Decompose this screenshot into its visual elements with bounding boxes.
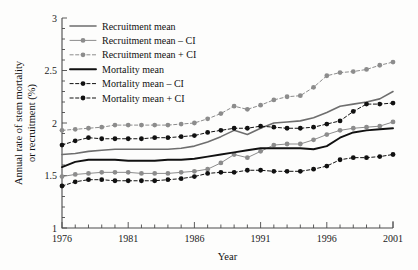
data-point-marker: [218, 170, 223, 175]
data-point-marker: [139, 171, 144, 176]
data-point-marker: [152, 171, 157, 176]
legend-label: Mortality mean + CI: [102, 93, 185, 104]
data-point-marker: [364, 67, 369, 72]
data-point-marker: [99, 136, 104, 141]
data-point-marker: [271, 98, 276, 103]
data-point-marker: [152, 135, 157, 140]
data-point-marker: [324, 73, 329, 78]
data-point-marker: [271, 169, 276, 174]
data-point-marker: [86, 126, 91, 131]
data-point-marker: [218, 128, 223, 133]
data-point-marker: [113, 170, 118, 175]
data-point-marker: [205, 116, 210, 121]
y-tick-label: 1.5: [45, 170, 58, 181]
y-tick-label: 2: [52, 118, 57, 129]
data-point-marker: [391, 101, 396, 106]
legend-swatch-marker: [81, 81, 86, 86]
data-point-marker: [113, 178, 118, 183]
data-point-marker: [192, 133, 197, 138]
data-point-marker: [258, 103, 263, 108]
data-point-marker: [86, 177, 91, 182]
data-point-marker: [351, 109, 356, 114]
data-point-marker: [311, 85, 316, 90]
x-tick-label: 2001: [383, 233, 403, 244]
data-point-marker: [126, 136, 131, 141]
data-point-marker: [139, 123, 144, 128]
data-point-marker: [126, 170, 131, 175]
data-point-marker: [73, 138, 78, 143]
data-point-marker: [271, 143, 276, 148]
data-point-marker: [205, 130, 210, 135]
data-point-marker: [338, 157, 343, 162]
data-point-marker: [60, 184, 65, 189]
x-tick-label: 1996: [317, 233, 337, 244]
data-point-marker: [232, 126, 237, 131]
data-point-marker: [205, 171, 210, 176]
data-point-marker: [298, 126, 303, 131]
data-point-marker: [232, 104, 237, 109]
data-point-marker: [126, 123, 131, 128]
data-point-marker: [166, 177, 171, 182]
data-point-marker: [179, 134, 184, 139]
data-point-marker: [73, 172, 78, 177]
data-point-marker: [324, 132, 329, 137]
data-point-marker: [258, 149, 263, 154]
legend-swatch-marker: [81, 96, 86, 101]
legend-label: Recruitment mean: [102, 21, 176, 32]
y-axis-title-line1: Annual rate of stem mortality: [13, 60, 24, 185]
data-point-marker: [285, 94, 290, 99]
data-point-marker: [391, 120, 396, 125]
data-point-marker: [205, 167, 210, 172]
data-point-marker: [245, 126, 250, 131]
data-point-marker: [364, 125, 369, 130]
data-point-marker: [285, 169, 290, 174]
data-point-marker: [232, 170, 237, 175]
data-point-marker: [285, 142, 290, 147]
data-point-marker: [139, 178, 144, 183]
data-point-marker: [351, 69, 356, 74]
data-point-marker: [377, 63, 382, 68]
data-point-marker: [60, 143, 65, 148]
data-point-marker: [324, 122, 329, 127]
data-point-marker: [218, 161, 223, 166]
data-point-marker: [298, 93, 303, 98]
plot-background: [0, 0, 418, 270]
data-point-marker: [166, 135, 171, 140]
data-point-marker: [218, 111, 223, 116]
data-point-marker: [86, 135, 91, 140]
data-point-marker: [311, 125, 316, 130]
legend-label: Mortality mean: [102, 64, 164, 75]
data-point-marker: [73, 179, 78, 184]
data-point-marker: [179, 176, 184, 181]
data-point-marker: [192, 169, 197, 174]
data-point-marker: [245, 168, 250, 173]
y-tick-label: 2.5: [45, 65, 58, 76]
data-point-marker: [245, 155, 250, 160]
data-point-marker: [377, 124, 382, 129]
data-point-marker: [298, 169, 303, 174]
data-point-marker: [60, 128, 65, 133]
data-point-marker: [113, 136, 118, 141]
data-point-marker: [311, 137, 316, 142]
x-tick-label: 1976: [52, 233, 72, 244]
data-point-marker: [391, 60, 396, 65]
data-point-marker: [351, 155, 356, 160]
x-tick-label: 1991: [251, 233, 271, 244]
data-point-marker: [258, 124, 263, 129]
data-point-marker: [338, 119, 343, 124]
data-point-marker: [245, 107, 250, 112]
data-point-marker: [99, 170, 104, 175]
data-point-marker: [311, 167, 316, 172]
data-point-marker: [298, 142, 303, 147]
data-point-marker: [192, 174, 197, 179]
legend-swatch-marker: [81, 52, 86, 57]
data-point-marker: [99, 125, 104, 130]
data-point-marker: [364, 102, 369, 107]
data-point-marker: [179, 122, 184, 127]
y-tick-label: 1: [52, 223, 57, 234]
data-point-marker: [351, 126, 356, 131]
data-point-marker: [152, 178, 157, 183]
data-point-marker: [126, 178, 131, 183]
legend-label: Recruitment mean + CI: [102, 49, 196, 60]
data-point-marker: [60, 174, 65, 179]
